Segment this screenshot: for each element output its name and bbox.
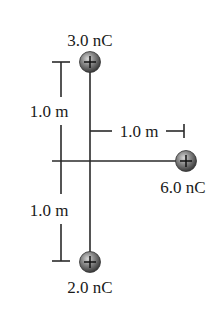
charge-diagram: 1.0 m 1.0 m 1.0 m 3.0 nC 6.0 nC 2.0 nC [0,0,224,309]
horizontal-dimension: 1.0 m [90,122,184,141]
charge-bottom: 2.0 nC [67,252,112,298]
charge-bottom-label: 2.0 nC [67,278,112,297]
charge-top: 3.0 nC [67,31,112,73]
lower-vertical-dimension: 1.0 m [30,161,70,261]
lower-vertical-distance-label: 1.0 m [30,201,69,220]
charge-right: 6.0 nC [160,151,205,198]
upper-vertical-distance-label: 1.0 m [30,102,69,121]
upper-vertical-dimension: 1.0 m [30,62,70,161]
charge-top-label: 3.0 nC [67,31,112,50]
charge-right-label: 6.0 nC [160,178,205,197]
horizontal-distance-label: 1.0 m [120,122,159,141]
